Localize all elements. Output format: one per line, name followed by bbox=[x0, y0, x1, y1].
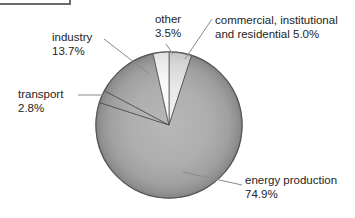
callout-transport: transport 2.8% bbox=[18, 87, 63, 115]
callout-commercial-value: and residential 5.0% bbox=[215, 27, 338, 41]
callout-commercial-label: commercial, institutional bbox=[215, 13, 338, 27]
callout-energy: energy production 74.9% bbox=[245, 173, 337, 201]
callout-commercial: commercial, institutional and residentia… bbox=[215, 13, 338, 41]
callout-industry-label: industry bbox=[52, 30, 92, 44]
callout-other: other 3.5% bbox=[155, 12, 181, 40]
leader-line-commercial bbox=[185, 19, 212, 59]
callout-other-label: other bbox=[155, 12, 181, 26]
callout-other-value: 3.5% bbox=[155, 26, 181, 40]
callout-transport-label: transport bbox=[18, 87, 63, 101]
callout-energy-label: energy production bbox=[245, 173, 337, 187]
figure-canvas: other 3.5% commercial, institutional and… bbox=[0, 0, 355, 218]
callout-industry-value: 13.7% bbox=[52, 44, 92, 58]
callout-transport-value: 2.8% bbox=[18, 101, 63, 115]
callout-energy-value: 74.9% bbox=[245, 187, 337, 201]
callout-industry: industry 13.7% bbox=[52, 30, 92, 58]
